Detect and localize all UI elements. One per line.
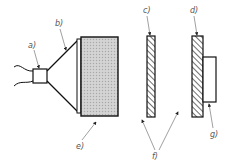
attached-box — [203, 57, 216, 102]
cable-wires — [14, 66, 33, 86]
cone-horn — [47, 39, 81, 113]
label-b: b) — [55, 19, 63, 28]
label-c: c) — [143, 6, 151, 15]
hatched-plate-2 — [192, 36, 203, 117]
label-g: g) — [210, 130, 218, 139]
source-box — [33, 69, 47, 83]
dotted-block — [81, 37, 118, 116]
label-e: e) — [76, 142, 84, 151]
label-f: f) — [152, 152, 158, 161]
label-a: a) — [28, 41, 36, 50]
leader-lines — [34, 16, 213, 150]
schematic-diagram: a) b) c) d) e) f) g) — [0, 0, 236, 166]
label-d: d) — [190, 6, 198, 15]
hatched-plate-1 — [147, 36, 155, 117]
